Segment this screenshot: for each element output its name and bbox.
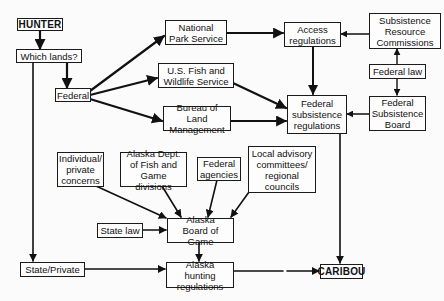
node-hunter: HUNTER [17, 18, 63, 31]
arrow-federal-agencies-to-board-of-game [208, 180, 217, 217]
node-federal-subsistence-board: Federal Subsistence Board [369, 96, 426, 131]
caribou-management-flow-diagram: HUNTER Which lands? Federal National Par… [0, 0, 444, 301]
node-state-law: State law [97, 223, 143, 238]
arrow-federal-to-blm [90, 99, 162, 121]
node-national-park-service: National Park Service [165, 20, 227, 45]
node-federal-agencies: Federal agencies [197, 157, 241, 181]
node-caribou: CARIBOU [320, 264, 363, 279]
node-local-advisory-committees: Local advisory committees/ regional coun… [248, 146, 316, 193]
node-access-regulations: Access regulations [284, 22, 341, 47]
arrow-federal-to-usfws [90, 78, 157, 95]
arrow-local-advisory-to-board-of-game [231, 192, 249, 217]
node-alaska-board-of-game: Alaska Board of Game [167, 218, 234, 243]
node-subsistence-resource-commissions: Subsistence Resource Commissions [369, 13, 441, 49]
node-federal: Federal [55, 88, 91, 102]
node-us-fish-wildlife-service: U.S. Fish and Wildlife Service [158, 63, 234, 88]
node-federal-subsistence-regulations: Federal subsistence regulations [287, 95, 347, 134]
node-alaska-dept-fish-game: Alaska Dept. of Fish and Game divisions [120, 152, 187, 187]
node-federal-law: Federal law [369, 64, 426, 79]
node-which-lands: Which lands? [16, 49, 82, 63]
node-alaska-hunting-regulations: Alaska hunting regulations [166, 262, 234, 288]
node-individual-private-concerns: Individual/ private concerns [57, 152, 104, 187]
node-state-private: State/Private [20, 262, 85, 277]
arrow-federal-to-nps [90, 36, 164, 91]
arrow-usfws-to-fed-subsistence-regs [233, 83, 286, 108]
node-bureau-of-land-management: Bureau of Land Management [163, 106, 231, 131]
